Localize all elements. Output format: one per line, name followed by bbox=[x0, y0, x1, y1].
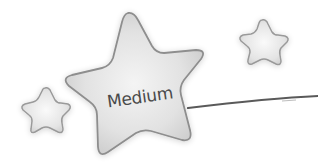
small-star-top-right-icon bbox=[240, 20, 288, 65]
wand-line bbox=[188, 96, 318, 108]
star-illustration: Medium bbox=[0, 0, 318, 163]
small-star-left-icon bbox=[22, 88, 70, 133]
wand-line-highlight bbox=[282, 100, 296, 101]
main-star-icon bbox=[66, 13, 203, 154]
